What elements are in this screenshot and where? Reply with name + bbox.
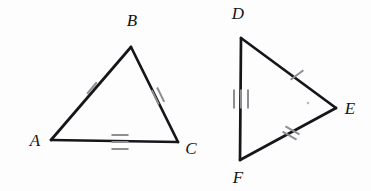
vertex-label-b: B <box>127 11 138 30</box>
congruent-triangles-diagram: ABCDEF <box>0 0 371 191</box>
vertex-label-a: A <box>29 131 41 150</box>
vertex-label-f: F <box>232 168 244 187</box>
geometry-figure-canvas: ABCDEF <box>0 0 371 191</box>
diagram-background <box>0 0 371 191</box>
page-speck <box>307 102 310 105</box>
vertex-label-e: E <box>344 99 356 118</box>
vertex-label-d: D <box>231 4 245 23</box>
page-specks-layer <box>307 102 310 105</box>
vertex-label-c: C <box>185 139 197 158</box>
